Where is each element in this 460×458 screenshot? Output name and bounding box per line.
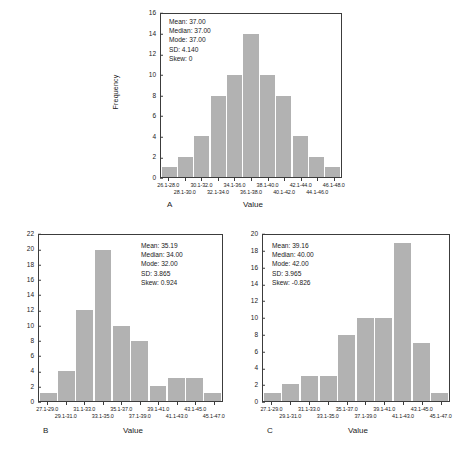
x-tick-mark <box>121 402 122 405</box>
y-tick-label: 16 <box>251 264 262 271</box>
x-tick-mark <box>168 178 169 181</box>
x-tick-label: 43.1-45.0 <box>411 407 433 412</box>
x-tick-mark <box>103 402 104 405</box>
stat-sd: SD: 3.965 <box>272 269 314 278</box>
y-tick-label: 12 <box>27 307 38 314</box>
x-tick-label: 28.1-30.0 <box>174 190 196 195</box>
y-tick-label: 6 <box>30 353 38 360</box>
stat-skew: Skew: 0.924 <box>141 278 183 287</box>
x-tick-label: 36.1-38.0 <box>240 190 262 195</box>
x-tick-mark <box>66 402 67 405</box>
y-tick-label: 0 <box>152 175 160 182</box>
y-tick-label: 6 <box>152 113 160 120</box>
y-tick-label: 14 <box>149 30 160 37</box>
x-tick-label: 29.1-31.0 <box>279 414 301 419</box>
x-axis-title-a: Value <box>243 200 263 209</box>
y-tick-label: 12 <box>149 51 160 58</box>
x-tick-label: 46.1-48.0 <box>323 183 345 188</box>
y-tick-label: 20 <box>27 246 38 253</box>
x-tick-mark <box>271 402 272 405</box>
y-tick-label: 10 <box>27 322 38 329</box>
x-tick-mark <box>195 402 196 405</box>
x-tick-mark <box>347 402 348 405</box>
x-tick-mark <box>328 402 329 405</box>
x-tick-label: 31.1-33.0 <box>73 407 95 412</box>
stat-mode: Mode: 32.00 <box>141 259 183 268</box>
y-tick-label: 14 <box>27 292 38 299</box>
stat-sd: SD: 4.140 <box>169 45 211 54</box>
y-tick-label: 8 <box>152 92 160 99</box>
stat-median: Median: 34.00 <box>141 250 183 259</box>
x-tick-mark <box>334 178 335 181</box>
x-tick-mark <box>317 178 318 181</box>
x-tick-mark <box>218 178 219 181</box>
panel-letter-a: A <box>167 200 172 209</box>
x-tick-mark <box>301 178 302 181</box>
x-tick-label: 37.1-39.0 <box>129 414 151 419</box>
x-tick-label: 33.1-35.0 <box>317 414 339 419</box>
panel-letter-c: C <box>267 426 273 435</box>
y-tick-label: 18 <box>251 248 262 255</box>
y-tick-label: 2 <box>152 154 160 161</box>
x-tick-mark <box>284 178 285 181</box>
stats-annotation-b: Mean: 35.19 Median: 34.00 Mode: 32.00 SD… <box>141 241 183 287</box>
x-tick-label: 29.1-31.0 <box>55 414 77 419</box>
y-tick-label: 2 <box>30 383 38 390</box>
x-tick-label: 26.1-28.0 <box>157 183 179 188</box>
panel-letter-b: B <box>43 426 48 435</box>
x-tick-mark <box>140 402 141 405</box>
x-tick-label: 31.1-33.0 <box>298 407 320 412</box>
stat-mean: Mean: 35.19 <box>141 241 183 250</box>
y-tick-label: 10 <box>251 315 262 322</box>
x-axis-ticks-b: 27.1-29.029.1-31.031.1-33.033.1-35.035.1… <box>38 234 223 402</box>
stats-annotation-c: Mean: 39.16 Median: 40.00 Mode: 42.00 SD… <box>272 241 314 287</box>
y-tick-label: 22 <box>27 231 38 238</box>
x-tick-label: 33.1-35.0 <box>92 414 114 419</box>
x-tick-mark <box>47 402 48 405</box>
x-tick-label: 39.1-41.0 <box>373 407 395 412</box>
y-tick-label: 4 <box>30 368 38 375</box>
x-tick-label: 45.1-47.0 <box>203 414 225 419</box>
x-tick-mark <box>403 402 404 405</box>
stat-mean: Mean: 37.00 <box>169 17 211 26</box>
y-tick-label: 14 <box>251 281 262 288</box>
stat-median: Median: 40.00 <box>272 250 314 259</box>
x-tick-mark <box>214 402 215 405</box>
x-tick-label: 40.1-42.0 <box>273 190 295 195</box>
x-tick-label: 35.1-37.0 <box>336 407 358 412</box>
histogram-panel-c: 02468101214161820 27.1-29.029.1-31.031.1… <box>230 228 458 454</box>
y-tick-label: 16 <box>27 277 38 284</box>
y-tick-label: 10 <box>149 72 160 79</box>
y-tick-label: 18 <box>27 261 38 268</box>
histogram-panel-b: 0246810121416182022 27.1-29.029.1-31.031… <box>6 228 228 454</box>
stat-mean: Mean: 39.16 <box>272 241 314 250</box>
x-tick-mark <box>422 402 423 405</box>
x-tick-label: 41.1-43.0 <box>392 414 414 419</box>
stat-mode: Mode: 42.00 <box>272 259 314 268</box>
x-tick-label: 35.1-37.0 <box>110 407 132 412</box>
y-tick-label: 8 <box>254 332 262 339</box>
histogram-panel-a: Frequency 0246810121416 26.1-28.028.1-30… <box>112 4 362 214</box>
x-tick-mark <box>365 402 366 405</box>
stats-annotation-a: Mean: 37.00 Median: 37.00 Mode: 37.00 SD… <box>169 17 211 63</box>
x-tick-mark <box>234 178 235 181</box>
x-tick-mark <box>268 178 269 181</box>
x-axis-title-c: Value <box>348 426 368 435</box>
y-tick-label: 6 <box>254 348 262 355</box>
x-tick-mark <box>185 178 186 181</box>
y-tick-label: 0 <box>254 399 262 406</box>
x-tick-mark <box>201 178 202 181</box>
x-axis-title-b: Value <box>123 426 143 435</box>
stat-sd: SD: 3.865 <box>141 269 183 278</box>
stat-mode: Mode: 37.00 <box>169 35 211 44</box>
x-tick-label: 32.1-34.0 <box>207 190 229 195</box>
x-tick-label: 43.1-45.0 <box>184 407 206 412</box>
y-tick-label: 2 <box>254 382 262 389</box>
x-tick-mark <box>441 402 442 405</box>
stat-median: Median: 37.00 <box>169 26 211 35</box>
x-tick-label: 37.1-39.0 <box>354 414 376 419</box>
y-tick-label: 0 <box>30 399 38 406</box>
x-tick-mark <box>290 402 291 405</box>
x-tick-mark <box>251 178 252 181</box>
x-tick-label: 38.1-40.0 <box>257 183 279 188</box>
